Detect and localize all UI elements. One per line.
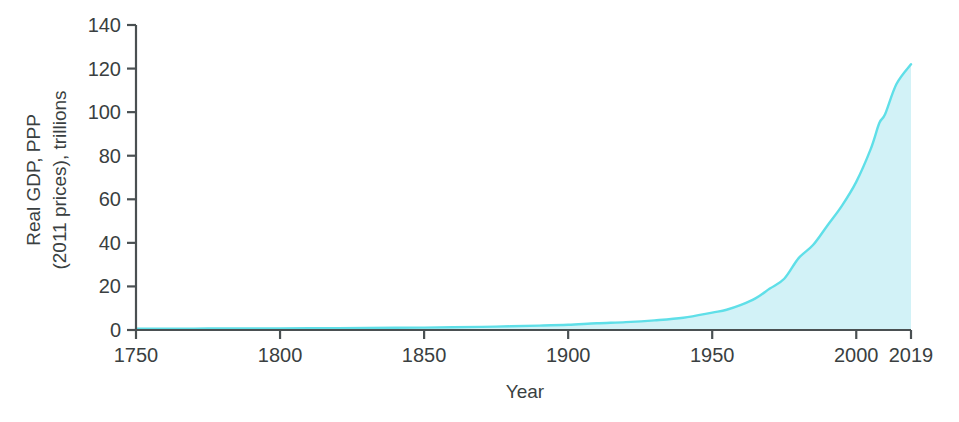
y-tick-label: 40: [99, 232, 121, 254]
x-axis-title: Year: [506, 381, 545, 402]
y-tick-label: 100: [88, 101, 121, 123]
x-tick-label: 2019: [889, 344, 934, 366]
x-tick-label: 1750: [114, 344, 159, 366]
x-tick-label: 1950: [690, 344, 735, 366]
y-tick-label: 20: [99, 275, 121, 297]
y-tick-label: 140: [88, 14, 121, 36]
x-tick-label: 1900: [546, 344, 591, 366]
y-tick-label: 120: [88, 58, 121, 80]
y-tick-label: 0: [110, 319, 121, 341]
y-tick-label: 80: [99, 145, 121, 167]
chart-canvas: 020406080100120140 175018001850190019502…: [0, 0, 959, 422]
gdp-area-chart: 020406080100120140 175018001850190019502…: [0, 0, 959, 422]
y-axis-title-line2: (2011 prices), trillions: [49, 90, 70, 269]
y-tick-label: 60: [99, 188, 121, 210]
x-tick-label: 1850: [402, 344, 447, 366]
x-tick-label: 2000: [834, 344, 879, 366]
y-axis-title-line1: Real GDP, PPP: [23, 114, 44, 246]
x-tick-label: 1800: [258, 344, 303, 366]
